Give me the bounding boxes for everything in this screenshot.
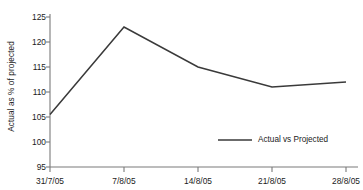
chart-container: Actual as % of projected 95 100 105 110 … xyxy=(0,0,363,190)
x-tick-label: 31/7/05 xyxy=(36,176,64,186)
x-tick-label: 7/8/05 xyxy=(112,176,135,186)
x-tick-label: 28/8/05 xyxy=(332,176,360,186)
x-axis-tick-labels: 31/7/05 7/8/05 14/8/05 21/8/05 28/8/05 xyxy=(0,0,363,190)
x-tick-label: 14/8/05 xyxy=(184,176,212,186)
x-tick-label: 21/8/05 xyxy=(258,176,286,186)
